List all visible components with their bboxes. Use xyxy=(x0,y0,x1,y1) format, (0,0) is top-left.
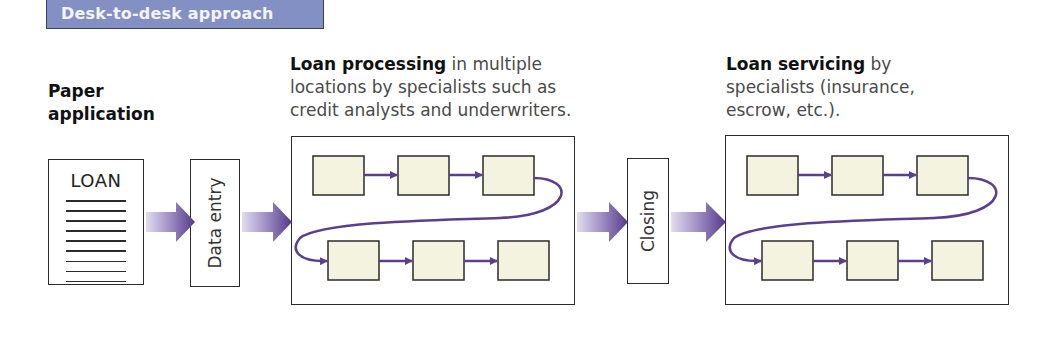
servicing-step xyxy=(917,156,968,195)
big-arrow-icon xyxy=(671,202,726,242)
servicing-step xyxy=(847,241,898,280)
servicing-step xyxy=(747,156,798,195)
servicing-step xyxy=(762,241,813,280)
process-step xyxy=(413,241,464,280)
servicing-step xyxy=(832,156,883,195)
flow-graphics xyxy=(0,0,1041,340)
process-step xyxy=(483,156,534,195)
process-step xyxy=(328,241,379,280)
servicing-step xyxy=(932,241,983,280)
process-step xyxy=(498,241,549,280)
big-arrow-icon xyxy=(146,202,195,242)
big-arrow-icon xyxy=(577,202,628,242)
process-step xyxy=(398,156,449,195)
process-step xyxy=(313,156,364,195)
big-arrow-icon xyxy=(242,202,292,242)
